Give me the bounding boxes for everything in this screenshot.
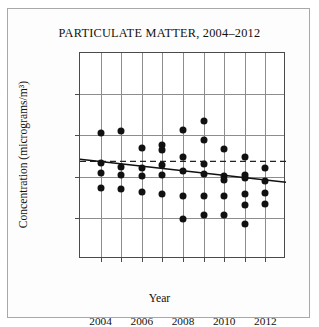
scatter-point: [200, 137, 207, 144]
scatter-point: [262, 190, 269, 197]
x-tick-mark: [245, 257, 246, 262]
plot-area: 0510152025 20042006200820102012: [79, 52, 285, 258]
scatter-point: [118, 185, 125, 192]
scatter-point: [200, 192, 207, 199]
x-tick-mark: [265, 257, 266, 262]
scatter-point: [138, 172, 145, 179]
scatter-point: [200, 161, 207, 168]
x-tick-mark: [183, 257, 184, 262]
scatter-point: [97, 170, 104, 177]
x-tick-mark: [204, 257, 205, 262]
scatter-point: [97, 185, 104, 192]
scatter-point: [221, 193, 228, 200]
x-tick-mark: [121, 257, 122, 262]
page-title: PARTICULATE MATTER, 2004–2012: [0, 26, 319, 41]
scatter-point: [159, 147, 166, 154]
scatter-point: [221, 145, 228, 152]
x-tick-mark: [101, 257, 102, 262]
scatter-point: [241, 153, 248, 160]
scatter-point: [241, 201, 248, 208]
y-axis-label: Concentration (micrograms/m³): [17, 50, 30, 260]
scatter-point: [97, 129, 104, 136]
scatter-point: [180, 193, 187, 200]
x-tick-label: 2004: [89, 315, 112, 327]
scatter-point: [262, 165, 269, 172]
scatter-point: [159, 162, 166, 169]
scatter-point: [138, 165, 145, 172]
scatter-point: [118, 171, 125, 178]
x-tick-label: 2008: [172, 315, 195, 327]
x-axis-label: Year: [0, 292, 319, 305]
chart-figure: PARTICULATE MATTER, 2004–2012 Concentrat…: [0, 0, 319, 327]
scatter-point: [200, 212, 207, 219]
scatter-point: [118, 128, 125, 135]
x-tick-mark: [224, 257, 225, 262]
scatter-point: [180, 167, 187, 174]
scatter-point: [159, 171, 166, 178]
scatter-point: [159, 190, 166, 197]
scatter-point: [241, 175, 248, 182]
scatter-point: [241, 220, 248, 227]
scatter-point: [180, 153, 187, 160]
scatter-point: [138, 189, 145, 196]
x-tick-label: 2010: [213, 315, 236, 327]
scatter-point: [262, 177, 269, 184]
scatter-point: [118, 163, 125, 170]
scatter-point: [241, 190, 248, 197]
scatter-point: [221, 176, 228, 183]
scatter-point: [180, 127, 187, 134]
scatter-point: [97, 159, 104, 166]
scatter-point: [200, 171, 207, 178]
x-tick-mark: [142, 257, 143, 262]
x-tick-label: 2006: [131, 315, 154, 327]
scatter-point: [262, 200, 269, 207]
x-tick-label: 2012: [254, 315, 277, 327]
scatter-point: [221, 212, 228, 219]
scatter-point: [138, 144, 145, 151]
scatter-point: [200, 118, 207, 125]
x-tick-mark: [162, 257, 163, 262]
scatter-point: [180, 215, 187, 222]
